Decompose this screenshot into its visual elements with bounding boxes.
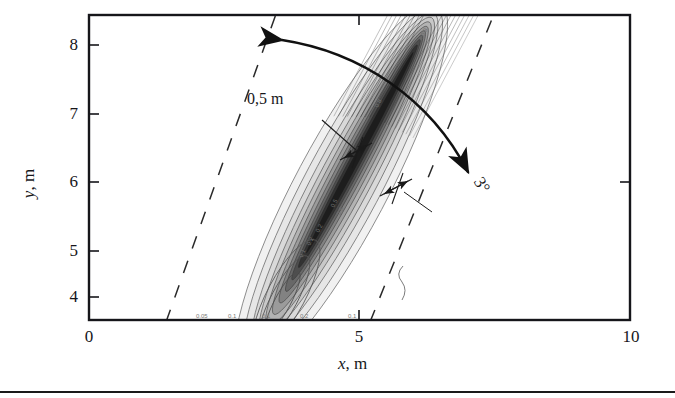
x-tick-label-0: 0 (74, 328, 104, 345)
y-axis-title-unit: , m (19, 169, 38, 191)
x-axis-title-unit: , m (346, 354, 368, 373)
x-axis-title: x, m (338, 355, 367, 372)
svg-text:0.1: 0.1 (262, 313, 271, 319)
y-tick-label-4: 4 (52, 288, 78, 305)
plume-width-annotation: 0,5 m (247, 91, 283, 107)
y-tick-label-8: 8 (52, 36, 78, 53)
x-axis-title-variable: x (338, 354, 346, 373)
y-axis-title-variable: y (19, 191, 38, 199)
x-tick-label-10: 10 (616, 328, 646, 345)
svg-text:0.1: 0.1 (348, 313, 357, 319)
svg-text:0.05: 0.05 (196, 313, 208, 319)
svg-text:0.1: 0.1 (228, 313, 237, 319)
x-tick-label-5: 5 (344, 328, 374, 345)
figure-root: 0.5 0.5 0.2 0.2 0.1 0.9 0.8 0.05 0.1 0.1… (0, 0, 675, 398)
y-axis-title: y, m (20, 164, 37, 204)
y-tick-label-5: 5 (52, 242, 78, 259)
y-tick-label-7: 7 (52, 105, 78, 122)
y-tick-label-6: 6 (52, 173, 78, 190)
svg-text:0.2: 0.2 (300, 313, 309, 319)
